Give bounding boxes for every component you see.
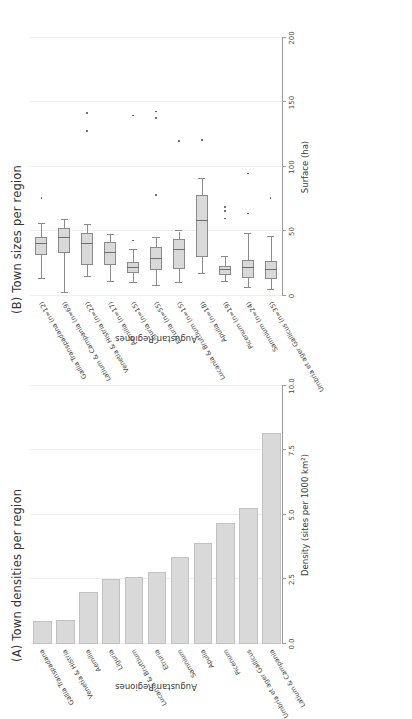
- panel-a-title: (A) Town densities per region: [10, 489, 24, 662]
- gridline: [30, 166, 282, 167]
- bar: [216, 523, 234, 644]
- category-label: Picenum: [221, 648, 242, 676]
- whisker-low: [110, 265, 111, 282]
- outlier-point: [224, 206, 226, 208]
- axis-tick-label: 10.0: [288, 378, 296, 394]
- panel-a-x-axis-title: Density (sites per 1000 km²): [300, 386, 310, 644]
- gridline: [30, 102, 282, 103]
- median-line: [104, 253, 116, 254]
- bar: [239, 508, 257, 644]
- whisker-cap-low: [244, 287, 251, 288]
- panel-b-title: (B) Town sizes per region: [10, 165, 24, 314]
- outlier-point: [155, 117, 157, 119]
- whisker-cap-low: [198, 273, 205, 274]
- whisker-high: [179, 232, 180, 240]
- whisker-high: [271, 237, 272, 262]
- median-line: [265, 269, 277, 270]
- box: [81, 233, 93, 265]
- whisker-high: [133, 250, 134, 263]
- box: [127, 262, 139, 272]
- median-line: [58, 237, 70, 238]
- whisker-cap-high: [221, 257, 228, 258]
- median-line: [35, 244, 47, 245]
- outlier-point: [201, 139, 203, 141]
- gridline: [30, 295, 282, 296]
- axis-tick-label: 100: [288, 160, 296, 173]
- whisker-low: [179, 269, 180, 283]
- whisker-low: [202, 257, 203, 274]
- axis-tick-label: 50: [288, 227, 296, 236]
- axis-tick: [282, 579, 286, 580]
- axis-tick-label: 2.5: [288, 574, 296, 585]
- bar: [125, 578, 143, 645]
- axis-tick-label: 0: [288, 294, 296, 298]
- axis-tick: [282, 295, 286, 296]
- outlier-point: [224, 210, 226, 212]
- axis-tick: [282, 231, 286, 232]
- panel-b-x-axis-title: Surface (ha): [300, 38, 310, 296]
- whisker-low: [41, 255, 42, 280]
- whisker-cap-low: [175, 282, 182, 283]
- whisker-low: [64, 253, 65, 293]
- whisker-cap-high: [38, 223, 45, 224]
- median-line: [242, 267, 254, 268]
- whisker-high: [156, 238, 157, 247]
- whisker-high: [87, 225, 88, 233]
- bar: [171, 557, 189, 644]
- axis-tick: [282, 102, 286, 103]
- panel-a-category-axis-title: Augustan Regiones: [115, 682, 197, 692]
- whisker-cap-high: [107, 235, 114, 236]
- bar: [79, 592, 97, 644]
- category-label: Umbria et ager Gallicus: [244, 648, 290, 719]
- axis-tick-label: 7.5: [288, 445, 296, 456]
- whisker-cap-high: [84, 224, 91, 225]
- whisker-cap-low: [267, 289, 274, 290]
- box: [242, 260, 254, 278]
- axis-tick-label: 200: [288, 31, 296, 44]
- whisker-high: [64, 220, 65, 228]
- outlier-point: [86, 112, 88, 114]
- gridline: [30, 450, 282, 451]
- box: [104, 242, 116, 265]
- box: [219, 266, 231, 275]
- bar: [194, 543, 212, 644]
- axis-tick-label: 0.0: [288, 638, 296, 649]
- box: [265, 261, 277, 279]
- category-label: Aemilia: [84, 648, 103, 673]
- box: [58, 228, 70, 254]
- category-label: Liguria: [107, 648, 125, 671]
- axis-tick: [282, 37, 286, 38]
- whisker-high: [202, 179, 203, 196]
- whisker-cap-low: [84, 276, 91, 277]
- gridline: [30, 385, 282, 386]
- whisker-cap-high: [198, 178, 205, 179]
- whisker-cap-low: [38, 278, 45, 279]
- whisker-cap-high: [244, 233, 251, 234]
- box: [196, 195, 208, 257]
- axis-tick: [282, 643, 286, 644]
- axis-tick-label: 150: [288, 96, 296, 109]
- median-line: [173, 249, 185, 250]
- bar: [262, 433, 280, 644]
- whisker-cap-high: [129, 249, 136, 250]
- category-label: Apulia: [198, 648, 215, 670]
- median-line: [81, 244, 93, 245]
- axis-tick: [282, 385, 286, 386]
- bar: [33, 621, 51, 644]
- panel-b-value-axis: [282, 38, 283, 296]
- outlier-point: [86, 130, 88, 132]
- whisker-high: [41, 224, 42, 237]
- whisker-cap-low: [61, 293, 68, 294]
- whisker-cap-low: [221, 281, 228, 282]
- axis-tick: [282, 514, 286, 515]
- whisker-cap-low: [152, 285, 159, 286]
- axis-tick-label: 5.0: [288, 509, 296, 520]
- median-line: [127, 267, 139, 268]
- whisker-high: [248, 234, 249, 260]
- median-line: [219, 269, 231, 270]
- whisker-cap-high: [61, 219, 68, 220]
- whisker-cap-high: [152, 237, 159, 238]
- whisker-cap-low: [129, 282, 136, 283]
